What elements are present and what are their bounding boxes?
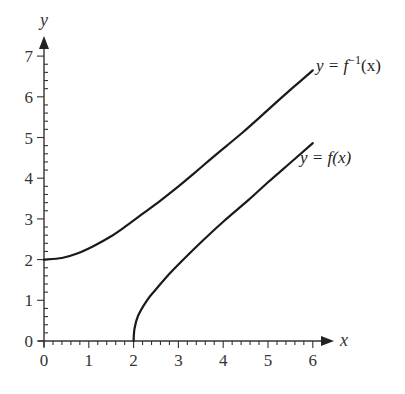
curve-label-f-inverse-suffix: (x) [361,56,381,75]
curve-label-f-inverse-sup: −1 [348,53,361,67]
y-axis-arrow-icon [39,36,49,49]
x-axis-arrow-icon [321,336,334,346]
x-tick-label: 3 [174,351,183,370]
y-tick-label: 7 [25,47,34,66]
curve-f [134,143,313,341]
y-tick-label: 2 [25,251,34,270]
curve-label-f: y = f(x) [298,148,351,167]
x-tick-label: 4 [219,351,228,370]
tick-labels: 012345601234567 [25,47,318,370]
axis-ticks [37,56,313,348]
y-tick-label: 4 [25,169,34,188]
y-axis-label: y [38,10,48,30]
curve-label-f-inverse-prefix: y = f [314,56,351,75]
curves [44,70,313,341]
x-axis-label: x [339,330,348,350]
x-tick-label: 6 [309,351,318,370]
curve-label-f-inverse: y = f−1(x) [314,53,381,75]
curve-f-inverse [44,70,313,259]
x-tick-label: 0 [40,351,49,370]
function-inverse-chart: 012345601234567 y x y = f−1(x) y = f(x) [0,0,405,394]
x-tick-label: 5 [264,351,273,370]
x-tick-label: 2 [129,351,138,370]
y-tick-label: 3 [25,210,34,229]
y-tick-label: 6 [25,88,34,107]
x-tick-label: 1 [85,351,94,370]
y-tick-label: 5 [25,129,34,148]
axes [38,36,334,347]
y-tick-label: 1 [25,291,34,310]
y-tick-label: 0 [25,332,34,351]
